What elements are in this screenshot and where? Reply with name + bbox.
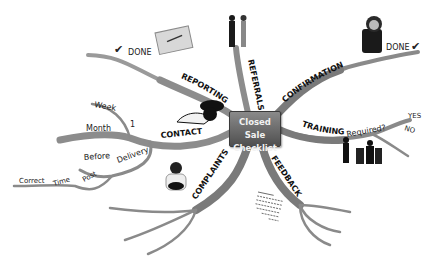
woman-on-phone-image (362, 16, 382, 53)
confirmation-done-label: DONE (386, 43, 410, 52)
mind-map: REPORTING REFERRALS CONFIRMATION TRAININ… (0, 0, 442, 267)
contact-number-label: 1 (130, 120, 135, 129)
sitting-child-image (166, 162, 186, 190)
contact-correct-label: Correct (19, 177, 45, 185)
handshake-people-image (229, 15, 247, 47)
branch-label-training: TRAINING (301, 119, 345, 136)
branch-label-confirmation: CONFIRMATION (280, 60, 344, 104)
notebook-image (155, 26, 193, 55)
training-no-label: NO (403, 124, 416, 135)
meeting-group-image (343, 137, 382, 164)
reporting-done-label: DONE (128, 48, 152, 57)
reporting-check-icon: ✔ (114, 43, 123, 56)
contact-month-label: Month (86, 124, 111, 133)
branch-label-referrals: REFERRALS (246, 59, 266, 112)
training-yes-label: YES (407, 112, 422, 120)
central-topic-line2: Checklist (230, 142, 280, 155)
contact-week-label: Week (94, 100, 118, 113)
checklist-document-image (253, 192, 283, 221)
central-topic-line1: Closed Sale (230, 116, 280, 142)
contact-before-label: Before (84, 151, 111, 162)
telephone-image (177, 100, 224, 124)
central-topic[interactable]: Closed Sale Checklist (229, 111, 281, 147)
confirmation-check-icon: ✔ (411, 40, 420, 53)
branch-label-contact: CONTACT (160, 127, 203, 140)
